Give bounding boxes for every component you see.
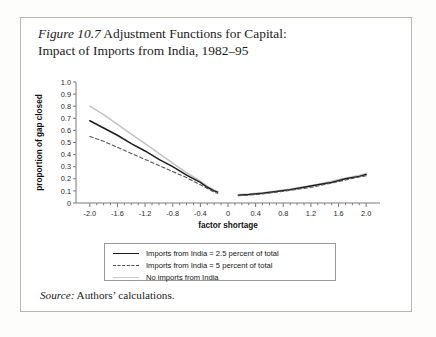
y-axis-title: proportion of gap closed	[35, 94, 44, 190]
x-tick-label: -0.8	[166, 209, 179, 218]
x-tick-label: 2.0	[361, 209, 371, 218]
legend-swatch-solid-icon	[113, 249, 139, 258]
x-tick-label: -2.0	[83, 209, 96, 218]
figure-title-line-1: Adjustment Functions for Capital:	[101, 26, 287, 41]
figure-number: Figure 10.7	[38, 26, 101, 41]
y-tick-label: 0.2	[61, 174, 71, 183]
source-text: Authors’ calculations.	[74, 289, 174, 301]
legend-label: Imports from India = 5 percent of total	[146, 261, 272, 270]
series-curve	[238, 173, 366, 194]
chart-legend: Imports from India = 2.5 percent of tota…	[104, 243, 336, 281]
y-tick-label: 0.3	[61, 162, 71, 171]
x-tick-label: 1.2	[306, 209, 316, 218]
figure-title-line-2: Impact of Imports from India, 1982–95	[38, 43, 248, 58]
legend-swatch-light-icon	[113, 273, 139, 282]
y-tick-label: 0.8	[61, 102, 71, 111]
series-curve	[90, 136, 218, 193]
y-tick-label: 0.4	[61, 150, 71, 159]
y-tick-label: 0.1	[61, 187, 71, 196]
legend-item: No imports from India	[113, 272, 335, 283]
x-tick-label: -1.6	[111, 209, 124, 218]
legend-swatch-dashed-icon	[113, 261, 139, 270]
figure-caption: Figure 10.7 Adjustment Functions for Cap…	[38, 26, 378, 59]
source-label: Source:	[40, 289, 74, 301]
y-tick-label: 0.9	[61, 90, 71, 99]
legend-item: Imports from India = 2.5 percent of tota…	[113, 248, 335, 259]
series-curve	[90, 106, 218, 191]
x-tick-label: 0.8	[278, 209, 288, 218]
series-curve	[90, 121, 218, 192]
y-tick-label: 0	[67, 199, 71, 208]
y-tick-label: 0.7	[61, 114, 71, 123]
line-chart: 00.10.20.30.40.50.60.70.80.91.0-2.0-1.6-…	[28, 72, 388, 240]
legend-label: Imports from India = 2.5 percent of tota…	[146, 249, 279, 258]
chart-plot-area: 00.10.20.30.40.50.60.70.80.91.0-2.0-1.6-…	[28, 72, 388, 240]
x-tick-label: 0	[226, 209, 230, 218]
y-tick-label: 0.6	[61, 126, 71, 135]
x-axis-title: factor shortage	[198, 221, 258, 230]
legend-item: Imports from India = 5 percent of total	[113, 260, 335, 271]
legend-label: No imports from India	[146, 273, 219, 282]
x-tick-label: 0.4	[250, 209, 260, 218]
y-tick-label: 0.5	[61, 138, 71, 147]
x-tick-label: -1.2	[139, 209, 152, 218]
source-note: Source: Authors’ calculations.	[40, 289, 175, 301]
x-tick-label: -0.4	[194, 209, 207, 218]
x-tick-label: 1.6	[333, 209, 343, 218]
y-tick-label: 1.0	[61, 78, 71, 87]
